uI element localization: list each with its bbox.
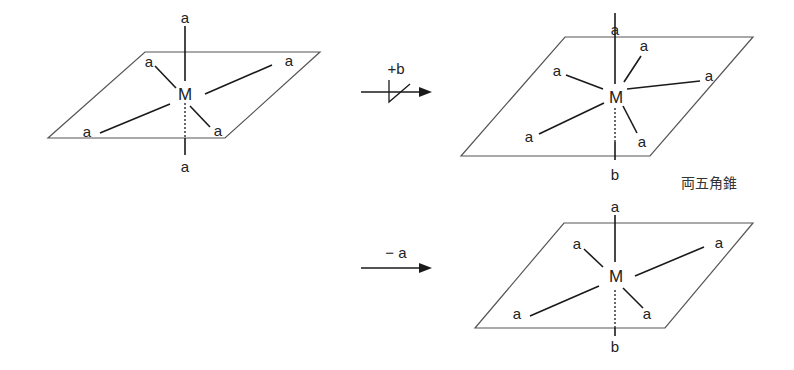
ligand-label: a (181, 158, 190, 175)
blocked-mark-icon (389, 80, 410, 102)
bond-eq-front-right (190, 106, 210, 127)
ligand-label: a (145, 53, 154, 70)
ligand-label: a (715, 234, 724, 251)
arrowhead-icon (419, 263, 432, 273)
product-octahedral-b: M a a a a a b (475, 198, 753, 355)
bond-eq-front-left (530, 286, 599, 316)
bond-eq-front-right (623, 288, 643, 308)
arrowhead-icon (419, 87, 432, 97)
reaction-diagram: M a a a a a a +b M a a a a a a b 両五角錐 (0, 0, 794, 370)
ligand-label: a (638, 133, 647, 150)
metal-label: M (609, 267, 623, 286)
ligand-label: a (640, 37, 649, 54)
arrow-label: − a (385, 244, 407, 261)
arrow-add-b: +b (361, 60, 432, 102)
geometry-caption: 両五角錐 (681, 175, 737, 191)
product-pentagonal-bipyramid: M a a a a a a b 両五角錐 (461, 13, 753, 191)
equatorial-plane (461, 37, 753, 156)
start-complex: M a a a a a a (48, 9, 320, 175)
arrow-label: +b (387, 60, 404, 77)
ligand-label: a (611, 198, 620, 215)
ligand-label: a (181, 9, 190, 26)
bond-eq-back-right (205, 65, 272, 94)
metal-label: M (178, 85, 192, 104)
ligand-label: a (214, 122, 223, 139)
ligand-label: a (83, 123, 92, 140)
bond-eq (627, 81, 700, 89)
bond-eq (566, 75, 603, 89)
ligand-label: b (611, 338, 619, 355)
arrow-remove-a: − a (361, 244, 432, 273)
ligand-label: a (285, 52, 294, 69)
ligand-label: a (553, 62, 562, 79)
ligand-label: a (525, 128, 534, 145)
bond-eq (539, 103, 604, 134)
ligand-label: a (705, 67, 714, 84)
ligand-label: b (611, 166, 619, 183)
ligand-label: a (513, 305, 522, 322)
ligand-label: a (611, 21, 620, 38)
bond-eq-front-left (100, 104, 170, 133)
metal-label: M (609, 88, 623, 107)
ligand-label: a (573, 235, 582, 252)
bond-eq-back-left (584, 249, 603, 267)
bond-eq-back-left (155, 66, 176, 88)
bond-eq-back-right (635, 247, 704, 276)
bond-eq (623, 106, 637, 133)
bond-eq (624, 56, 641, 82)
ligand-label: a (643, 305, 652, 322)
